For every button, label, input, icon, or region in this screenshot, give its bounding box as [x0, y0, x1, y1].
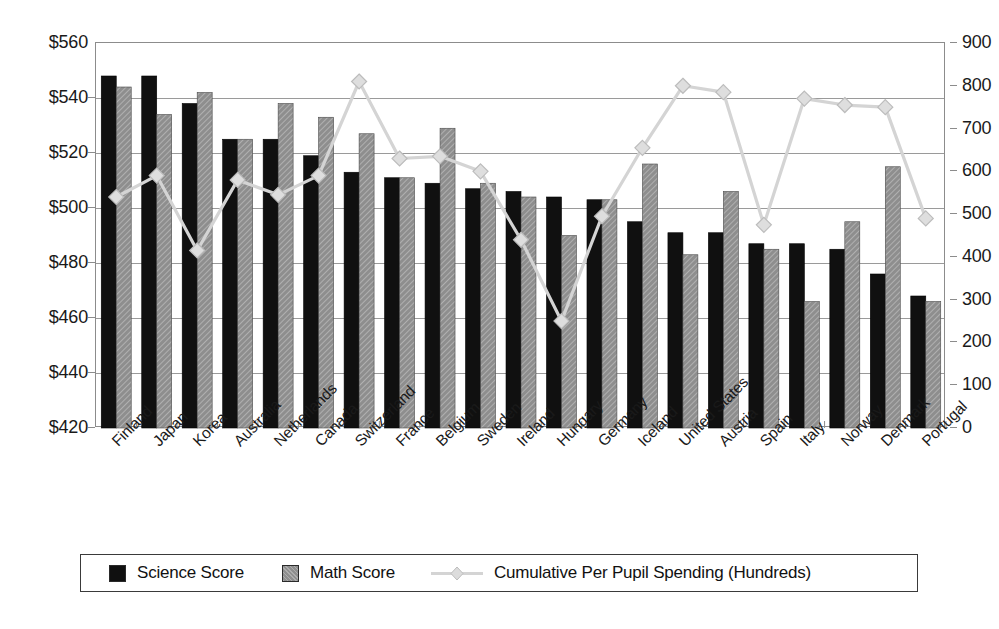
legend-label-science: Science Score: [137, 563, 244, 583]
y-tick-mark-left: [88, 97, 95, 98]
bar-math: [116, 87, 131, 428]
y-tick-label-left: $440: [6, 363, 88, 381]
y-tick-label-left: $520: [6, 143, 88, 161]
bar-science: [182, 104, 197, 429]
y-tick-mark-right: [950, 299, 957, 300]
marker-spending-diamond: [352, 74, 367, 89]
legend-label-spending: Cumulative Per Pupil Spending (Hundreds): [494, 563, 811, 583]
bar-math: [602, 200, 617, 428]
marker-spending-diamond: [797, 91, 812, 106]
y-tick-label-left: $460: [6, 308, 88, 326]
y-tick-label-right: 900: [962, 33, 999, 51]
marker-spending-diamond: [878, 100, 893, 115]
legend-item-spending[interactable]: Cumulative Per Pupil Spending (Hundreds): [429, 555, 811, 591]
y-tick-label-left: $500: [6, 198, 88, 216]
bar-science: [304, 156, 319, 428]
marker-spending-diamond: [918, 211, 933, 226]
plot-area: [95, 42, 945, 427]
legend-item-science[interactable]: Science Score: [109, 555, 244, 591]
y-tick-label-right: 400: [962, 247, 999, 265]
y-tick-label-right: 100: [962, 375, 999, 393]
black-square-icon: [109, 565, 126, 582]
x-axis-category-labels: FinlandJapanKoreaAustraliaNetherlandsCan…: [0, 430, 999, 540]
y-tick-label-right: 600: [962, 161, 999, 179]
y-tick-mark-right: [950, 170, 957, 171]
legend-item-math[interactable]: Math Score: [282, 555, 395, 591]
gray-square-icon: [282, 565, 299, 582]
y-tick-mark-left: [88, 427, 95, 428]
bar-science: [344, 172, 359, 428]
bar-math: [278, 104, 293, 429]
marker-spending-diamond: [716, 85, 731, 100]
y-tick-label-left: $480: [6, 253, 88, 271]
bar-science: [142, 76, 157, 428]
y-tick-label-right: 500: [962, 204, 999, 222]
y-tick-mark-left: [88, 262, 95, 263]
bar-science: [263, 139, 278, 428]
bar-science: [789, 244, 804, 428]
y-tick-mark-right: [950, 213, 957, 214]
chart-legend: Science Score Math Score Cumulative Per …: [80, 554, 918, 592]
bar-science: [749, 244, 764, 428]
marker-spending-diamond: [473, 164, 488, 179]
bar-math: [804, 302, 819, 429]
y-tick-label-right: 800: [962, 76, 999, 94]
y-tick-mark-right: [950, 128, 957, 129]
marker-spending-diamond: [392, 151, 407, 166]
bar-science: [547, 197, 562, 428]
bar-science: [425, 183, 440, 428]
plot-series-layer: [96, 43, 946, 428]
bar-math: [561, 236, 576, 429]
bar-math: [764, 249, 779, 428]
marker-spending-diamond: [837, 98, 852, 113]
y-tick-mark-left: [88, 207, 95, 208]
bar-math: [197, 93, 212, 429]
bar-math: [885, 167, 900, 428]
bar-math: [642, 164, 657, 428]
y-tick-label-left: $560: [6, 33, 88, 51]
bar-math: [683, 255, 698, 428]
bar-science: [466, 189, 481, 428]
bar-math: [521, 197, 536, 428]
y-tick-label-right: 300: [962, 290, 999, 308]
y-tick-mark-right: [950, 42, 957, 43]
bar-math: [440, 128, 455, 428]
bar-science: [101, 76, 116, 428]
bar-math: [845, 222, 860, 428]
line-diamond-icon: [429, 565, 485, 582]
y-tick-mark-right: [950, 85, 957, 86]
bar-math: [157, 115, 172, 429]
y-tick-label-right: 700: [962, 119, 999, 137]
legend-label-math: Math Score: [310, 563, 395, 583]
bar-math: [481, 183, 496, 428]
y-tick-mark-left: [88, 317, 95, 318]
y-tick-mark-right: [950, 256, 957, 257]
marker-spending-diamond: [756, 217, 771, 232]
bar-math: [359, 134, 374, 428]
chart-container: $560$540$520$500$480$460$440$420 9008007…: [0, 0, 999, 629]
bar-science: [668, 233, 683, 428]
y-tick-mark-right: [950, 341, 957, 342]
y-tick-mark-right: [950, 384, 957, 385]
y-axis-left: $560$540$520$500$480$460$440$420: [0, 0, 88, 470]
y-tick-mark-left: [88, 152, 95, 153]
y-tick-label-left: $540: [6, 88, 88, 106]
y-tick-mark-left: [88, 372, 95, 373]
y-tick-label-right: 200: [962, 332, 999, 350]
bar-science: [830, 249, 845, 428]
